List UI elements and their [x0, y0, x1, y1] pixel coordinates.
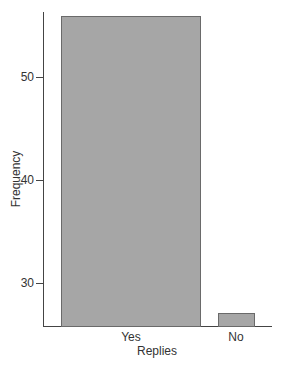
y-tick-40 [36, 180, 43, 181]
bar-yes [61, 16, 201, 327]
y-axis-title: Frequency [9, 149, 23, 209]
y-tick-50 [36, 77, 43, 78]
x-axis-title: Replies [132, 344, 182, 358]
y-tick-label-50: 50 [10, 70, 34, 84]
x-category-label-no: No [211, 330, 261, 344]
y-tick-30 [36, 283, 43, 284]
x-category-label-yes: Yes [106, 330, 156, 344]
y-axis-line [43, 12, 44, 327]
y-tick-label-30: 30 [10, 276, 34, 290]
bar-no [218, 313, 255, 327]
